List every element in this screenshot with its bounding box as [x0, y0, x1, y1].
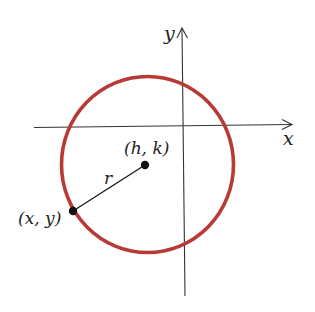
radius-label: r: [104, 168, 113, 188]
y-axis-label: y: [163, 22, 175, 44]
circle-point: [69, 207, 77, 215]
center-point: [141, 161, 149, 169]
x-axis-label: x: [283, 127, 294, 149]
circle-diagram: x y r (h, k) (x, y): [0, 0, 315, 312]
y-axis: y: [163, 22, 188, 296]
center-label: (h, k): [124, 138, 169, 158]
point-label: (x, y): [18, 208, 61, 228]
